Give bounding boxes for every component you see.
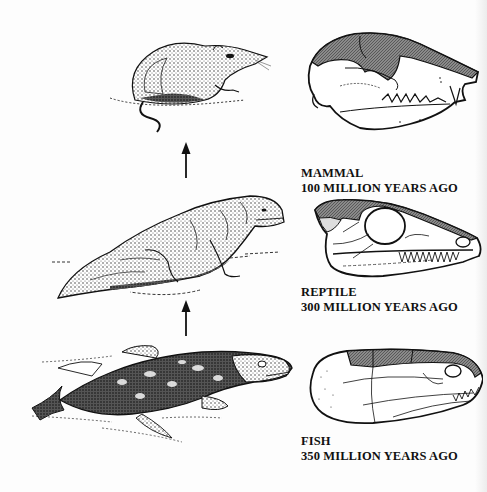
arrow-up-icon [180, 142, 192, 178]
reptile-lizard-illustration [50, 190, 290, 302]
reptile-name: REPTILE [301, 285, 458, 300]
fish-skull-illustration [303, 343, 483, 433]
fish-label: FISH 350 MILLION YEARS AGO [301, 434, 458, 464]
reptile-label: REPTILE 300 MILLION YEARS AGO [301, 285, 458, 315]
arrow-up-icon [180, 300, 192, 336]
mammal-skull-illustration [300, 28, 480, 140]
reptile-age: 300 MILLION YEARS AGO [301, 300, 458, 315]
mammal-shrew-illustration [105, 30, 275, 135]
reptile-skull-illustration [303, 192, 483, 284]
lobe-finned-fish-illustration [22, 338, 297, 448]
fish-name: FISH [301, 434, 458, 449]
mammal-name: MAMMAL [301, 166, 458, 181]
fish-age: 350 MILLION YEARS AGO [301, 449, 458, 464]
